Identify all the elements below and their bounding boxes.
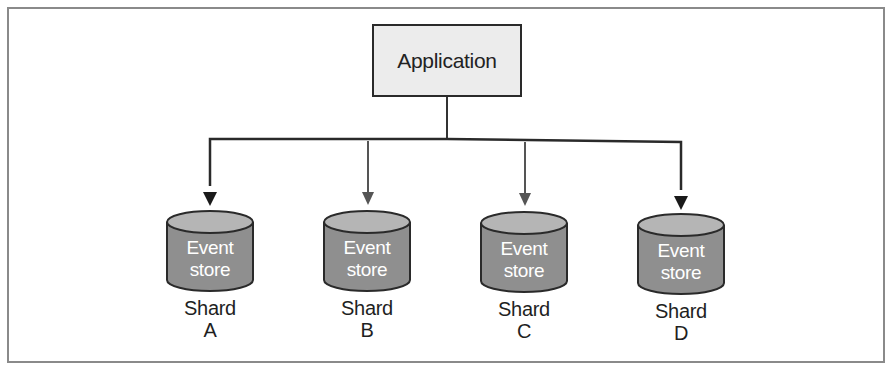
arrow-head-d [674, 196, 688, 210]
store-label-line2: store [636, 262, 726, 284]
shard-name-line2: D [636, 322, 726, 344]
store-label-line1: Event [165, 237, 255, 259]
connector-lines [0, 0, 894, 370]
store-label-line1: Event [636, 240, 726, 262]
arrow-head-b [362, 192, 374, 205]
store-label-line2: store [165, 259, 255, 281]
store-label-line1: Event [322, 237, 412, 259]
shard-name-line2: A [165, 319, 255, 341]
shard-name-line1: Shard [165, 297, 255, 319]
arrow-head-c [519, 193, 531, 206]
arrow-head-a [203, 192, 217, 206]
shard-name-line2: B [322, 319, 412, 341]
shard-name-line1: Shard [636, 300, 726, 322]
shard-name-line1: Shard [479, 298, 569, 320]
store-label-line2: store [322, 259, 412, 281]
shard-a: Event store Shard A [165, 210, 255, 294]
shard-b: Event store Shard B [322, 210, 412, 294]
shard-d: Event store Shard D [636, 213, 726, 297]
shard-c: Event store Shard C [479, 211, 569, 295]
store-label-line2: store [479, 260, 569, 282]
store-label-line1: Event [479, 238, 569, 260]
shard-name-line2: C [479, 320, 569, 342]
bus-line [210, 139, 681, 190]
shard-name-line1: Shard [322, 297, 412, 319]
